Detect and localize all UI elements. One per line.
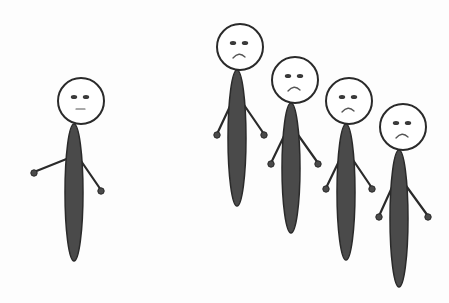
right-hand bbox=[98, 188, 104, 194]
stick-figures-drawing bbox=[0, 0, 449, 303]
body bbox=[228, 70, 246, 206]
left-hand bbox=[214, 132, 220, 138]
left-eye bbox=[285, 74, 291, 78]
stick-figure-group-1 bbox=[214, 24, 267, 206]
left-hand bbox=[323, 186, 329, 192]
left-hand bbox=[268, 161, 274, 167]
head bbox=[58, 78, 104, 124]
right-hand bbox=[425, 214, 431, 220]
stick-figure-group-2 bbox=[268, 57, 321, 233]
head bbox=[380, 104, 426, 150]
left-eye bbox=[230, 41, 236, 45]
stick-figure-group-4 bbox=[376, 104, 431, 287]
left-eye bbox=[339, 95, 345, 99]
stick-figure-group-3 bbox=[323, 78, 375, 260]
right-eye bbox=[297, 74, 303, 78]
body bbox=[337, 124, 355, 260]
right-hand bbox=[261, 132, 267, 138]
right-hand bbox=[315, 161, 321, 167]
body bbox=[282, 103, 300, 233]
head bbox=[326, 78, 372, 124]
right-eye bbox=[405, 121, 411, 125]
head bbox=[272, 57, 318, 103]
left-eye bbox=[393, 121, 399, 125]
left-hand bbox=[376, 214, 382, 220]
right-eye bbox=[351, 95, 357, 99]
stick-figure-lone bbox=[31, 78, 104, 261]
right-eye bbox=[83, 95, 89, 99]
body bbox=[390, 150, 408, 287]
right-hand bbox=[369, 186, 375, 192]
left-arm bbox=[34, 158, 69, 172]
right-eye bbox=[242, 41, 248, 45]
illustration-canvas bbox=[0, 0, 449, 303]
head bbox=[217, 24, 263, 70]
body bbox=[65, 124, 83, 261]
left-hand bbox=[31, 170, 37, 176]
left-eye bbox=[71, 95, 77, 99]
